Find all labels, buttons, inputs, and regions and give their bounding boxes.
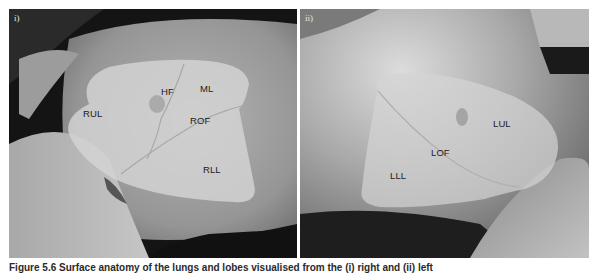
photo-left-lateral bbox=[300, 9, 589, 258]
label-right-lower-lobe: RLL bbox=[203, 164, 221, 175]
figure-caption: Figure 5.6 Surface anatomy of the lungs … bbox=[9, 262, 433, 273]
label-horizontal-fissure: HF bbox=[161, 86, 174, 97]
photo-right-lateral bbox=[9, 9, 297, 258]
panel-label: i) bbox=[14, 13, 20, 23]
panel-label: ii) bbox=[305, 13, 313, 23]
panel-left-lateral: ii) LUL LOF LLL bbox=[300, 9, 589, 258]
label-left-oblique-fissure: LOF bbox=[431, 147, 450, 158]
panel-right-lateral: i) RUL HF ML ROF RLL bbox=[9, 9, 297, 258]
label-right-oblique-fissure: ROF bbox=[190, 115, 210, 126]
label-right-upper-lobe: RUL bbox=[83, 108, 102, 119]
label-left-upper-lobe: LUL bbox=[493, 118, 511, 129]
label-left-lower-lobe: LLL bbox=[390, 170, 406, 181]
label-middle-lobe: ML bbox=[200, 83, 213, 94]
